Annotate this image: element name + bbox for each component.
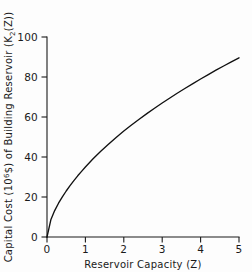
x-tick-label-5: 5 bbox=[236, 243, 243, 255]
chart-figure: 0 20 40 60 80 100 0 1 2 3 4 5 Rese bbox=[0, 0, 252, 272]
y-tick-label-80: 80 bbox=[24, 71, 38, 83]
y-axis-title-mid: $) of Building Reservoir (K bbox=[3, 36, 14, 174]
y-axis-ticks bbox=[42, 37, 48, 237]
x-tick-label-1: 1 bbox=[82, 243, 89, 255]
y-axis-tick-labels: 0 20 40 60 80 100 bbox=[17, 31, 38, 243]
y-tick-label-60: 60 bbox=[24, 111, 38, 123]
x-tick-label-4: 4 bbox=[197, 243, 204, 255]
x-tick-label-3: 3 bbox=[159, 243, 166, 255]
y-tick-label-0: 0 bbox=[31, 231, 38, 243]
y-axis-title-tail: (Z)) bbox=[3, 12, 14, 32]
y-tick-label-40: 40 bbox=[24, 151, 38, 163]
x-axis-title: Reservoir Capacity (Z) bbox=[84, 259, 201, 270]
y-tick-label-20: 20 bbox=[24, 191, 38, 203]
x-axis-ticks bbox=[47, 237, 239, 243]
capital-cost-line-chart: 0 20 40 60 80 100 0 1 2 3 4 5 Rese bbox=[0, 0, 252, 272]
x-tick-label-0: 0 bbox=[44, 243, 51, 255]
x-axis-tick-labels: 0 1 2 3 4 5 bbox=[44, 243, 243, 255]
y-axis-title-lead: Capital Cost (10 bbox=[3, 178, 14, 262]
axes bbox=[47, 37, 239, 237]
x-tick-label-2: 2 bbox=[120, 243, 127, 255]
y-tick-label-100: 100 bbox=[17, 31, 38, 43]
y-axis-title: Capital Cost (106$) of Building Reservoi… bbox=[3, 12, 17, 263]
capital-cost-curve bbox=[47, 58, 239, 237]
